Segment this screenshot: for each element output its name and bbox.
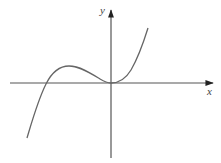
cubic-graph	[0, 0, 221, 163]
x-axis-label: x	[207, 86, 212, 97]
y-axis-label: y	[100, 5, 105, 16]
